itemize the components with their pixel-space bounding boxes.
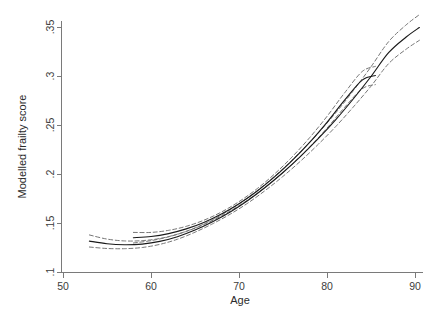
- y-axis-tick-label: .35: [44, 20, 56, 35]
- y-axis-tick-label: .25: [44, 118, 56, 133]
- axes-group: [62, 21, 424, 273]
- y-axis-title: Modelled frailty score: [16, 95, 28, 199]
- y-axis-tick-label: .15: [44, 216, 56, 231]
- confidence-interval-curve: [133, 66, 375, 232]
- fitted-curve: [89, 27, 419, 244]
- tick-labels-group: .1.15.2.25.3.355060708090: [44, 20, 421, 292]
- x-axis-title: Age: [230, 294, 250, 306]
- confidence-interval-curve: [89, 15, 419, 241]
- frailty-vs-age-line-chart: .1.15.2.25.3.355060708090 AgeModelled fr…: [0, 0, 431, 309]
- y-axis-tick-label: .3: [44, 71, 56, 80]
- ticks-group: [57, 27, 416, 278]
- y-axis-tick-label: .2: [44, 169, 56, 178]
- y-axis-tick-label: .1: [44, 267, 56, 276]
- data-series-group: [89, 15, 419, 249]
- fitted-curve: [133, 76, 375, 238]
- x-axis-tick-label: 70: [233, 280, 245, 292]
- x-axis-tick-label: 50: [57, 280, 69, 292]
- confidence-interval-curve: [89, 40, 419, 248]
- x-axis-tick-label: 80: [321, 280, 333, 292]
- x-axis-tick-label: 90: [409, 280, 421, 292]
- chart-figure: .1.15.2.25.3.355060708090 AgeModelled fr…: [0, 0, 431, 309]
- x-axis-tick-label: 60: [145, 280, 157, 292]
